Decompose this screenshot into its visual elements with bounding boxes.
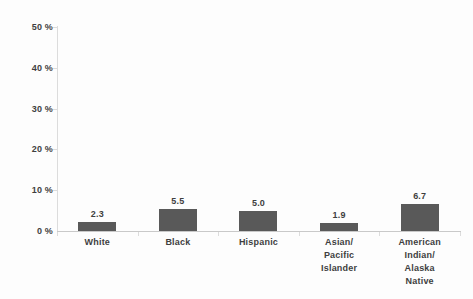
bar-slot-black: 5.5	[138, 27, 219, 231]
chart-page: 50 % 40 % 30 % 20 % 10 % 0 % 2.3 5.5 5.0	[0, 0, 473, 299]
y-tick-label-10: 10 %	[7, 185, 53, 195]
y-tick-label-0: 0 %	[7, 226, 53, 236]
bar-value-white: 2.3	[91, 209, 104, 219]
bar-slot-american-indian-alaska-native: 6.7	[379, 27, 460, 231]
bar-black[interactable]	[159, 209, 197, 231]
bar-value-black: 5.5	[171, 196, 184, 206]
y-axis: 50 % 40 % 30 % 20 % 10 % 0 %	[0, 0, 53, 299]
bar-asian-pacific-islander[interactable]	[320, 223, 358, 231]
bar-value-asian-pacific-islander: 1.9	[333, 210, 346, 220]
x-category-label-american-indian-alaska-native: AmericanIndian/AlaskaNative	[379, 236, 460, 288]
bar-slot-asian-pacific-islander: 1.9	[299, 27, 380, 231]
bar-value-american-indian-alaska-native: 6.7	[413, 191, 426, 201]
y-tick-label-20: 20 %	[7, 144, 53, 154]
x-category-label-asian-pacific-islander: Asian/PacificIslander	[299, 236, 380, 275]
y-tick-label-30: 30 %	[7, 104, 53, 114]
x-category-label-black: Black	[138, 236, 219, 249]
bar-value-hispanic: 5.0	[252, 198, 265, 208]
x-axis-line	[57, 231, 461, 232]
x-category-label-hispanic: Hispanic	[218, 236, 299, 249]
y-tick-label-50: 50 %	[7, 22, 53, 32]
x-tick-mark-5	[460, 232, 461, 236]
bar-american-indian-alaska-native[interactable]	[401, 204, 439, 231]
bar-hispanic[interactable]	[239, 211, 277, 231]
bar-slot-white: 2.3	[57, 27, 138, 231]
plot-area: 2.3 5.5 5.0 1.9 6.7	[57, 27, 460, 231]
bar-slot-hispanic: 5.0	[218, 27, 299, 231]
x-category-label-white: White	[57, 236, 138, 249]
bar-white[interactable]	[78, 222, 116, 231]
y-tick-label-40: 40 %	[7, 63, 53, 73]
